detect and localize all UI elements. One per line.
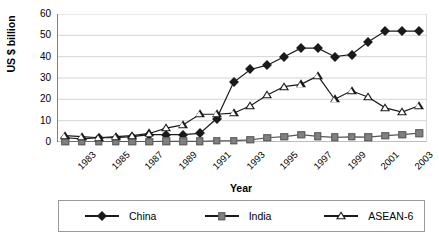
data-point — [230, 137, 238, 145]
data-point — [363, 92, 373, 100]
filled-diamond-marker-icon — [85, 209, 119, 223]
x-axis-tick-label: 2003 — [412, 149, 435, 172]
data-point — [162, 138, 170, 146]
data-point — [196, 138, 204, 146]
data-point — [348, 133, 356, 141]
data-point — [161, 123, 171, 131]
x-axis-tick-label: 1987 — [143, 149, 166, 172]
data-point — [247, 136, 255, 144]
y-axis-tick-label: 0 — [27, 137, 51, 147]
x-axis-tick-label: 1997 — [311, 149, 334, 172]
y-axis-tick-label: 20 — [27, 94, 51, 104]
data-point — [280, 133, 288, 141]
x-axis-tick-label: 1989 — [176, 149, 199, 172]
data-point — [365, 133, 373, 141]
data-point — [146, 138, 154, 146]
data-point — [279, 82, 289, 90]
data-point — [314, 133, 322, 141]
data-point — [229, 108, 239, 116]
data-point — [297, 131, 305, 139]
data-point — [262, 90, 272, 98]
y-axis-tick-label: 60 — [27, 9, 51, 19]
data-point — [296, 80, 306, 88]
data-point — [380, 103, 390, 111]
y-axis-tick-label: 40 — [27, 52, 51, 62]
legend-item-china[interactable]: China — [59, 209, 185, 223]
data-point — [382, 132, 390, 140]
x-axis-tick-label: 1993 — [244, 149, 267, 172]
x-axis-tick-label: 1991 — [210, 149, 233, 172]
data-point — [313, 71, 323, 79]
legend-label: China — [129, 210, 156, 222]
filled-square-marker-icon — [205, 209, 239, 223]
data-point — [264, 134, 272, 142]
data-point — [179, 138, 187, 146]
series-line-china — [65, 31, 419, 139]
data-point — [414, 101, 424, 109]
data-point — [144, 129, 154, 137]
data-point — [111, 132, 121, 140]
data-point — [330, 95, 340, 103]
legend-label: India — [249, 210, 272, 222]
data-point — [61, 138, 69, 146]
legend-label: ASEAN-6 — [368, 210, 413, 222]
data-point — [212, 109, 222, 117]
data-point — [129, 138, 137, 146]
y-axis-tick-label: 50 — [27, 30, 51, 40]
open-triangle-marker-icon — [324, 209, 358, 223]
chart-figure: US $ billion Year 0102030405060 19831985… — [0, 0, 439, 239]
y-axis-title: US $ billion — [5, 0, 17, 99]
data-point — [245, 101, 255, 109]
data-point — [347, 86, 357, 94]
chart-legend: China India ASEAN-6 — [58, 200, 425, 232]
data-point — [331, 134, 339, 142]
x-axis-tick-label: 1983 — [75, 149, 98, 172]
data-point — [195, 109, 205, 117]
series-line-asean-6 — [65, 76, 419, 138]
plot-svg — [58, 14, 426, 142]
data-point — [77, 132, 87, 140]
x-axis-tick-label: 1995 — [277, 149, 300, 172]
data-point — [178, 120, 188, 128]
x-axis-tick-label: 2001 — [379, 149, 402, 172]
legend-item-india[interactable]: India — [185, 209, 305, 223]
data-point — [213, 137, 221, 145]
data-point — [397, 107, 407, 115]
x-axis-title: Year — [57, 182, 425, 194]
data-point — [94, 133, 104, 141]
data-point — [60, 131, 70, 139]
y-axis-tick-label: 30 — [27, 73, 51, 83]
y-axis-tick-label: 10 — [27, 116, 51, 126]
x-axis-tick-label: 1985 — [109, 149, 132, 172]
legend-item-asean6[interactable]: ASEAN-6 — [304, 209, 424, 223]
data-point — [127, 131, 137, 139]
data-point — [415, 129, 423, 137]
plot-area — [57, 14, 427, 142]
data-point — [398, 131, 406, 139]
x-axis-tick-label: 1999 — [345, 149, 368, 172]
